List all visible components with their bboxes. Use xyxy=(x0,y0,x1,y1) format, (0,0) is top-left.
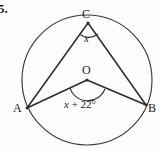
angle-label-central-operator: + xyxy=(69,98,81,110)
segment-ca xyxy=(27,23,88,108)
angle-label-inscribed-x: x xyxy=(84,33,89,44)
vertex-label-c: C xyxy=(82,8,90,20)
geometry-figure: 5. C O A B x x + 22° xyxy=(0,0,163,151)
angle-label-central: x + 22° xyxy=(64,99,96,110)
vertex-label-o: O xyxy=(82,64,91,76)
vertex-dot-a xyxy=(26,107,29,110)
vertex-label-a: A xyxy=(13,102,22,114)
vertex-label-b: B xyxy=(148,102,156,114)
vertex-dot-b xyxy=(145,104,148,107)
angle-label-central-constant: 22° xyxy=(81,98,96,110)
vertex-dot-o xyxy=(86,79,89,82)
vertex-dot-c xyxy=(87,22,90,25)
